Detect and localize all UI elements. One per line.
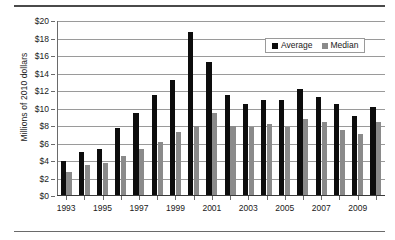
bar-median-1995 <box>103 163 108 196</box>
x-axis-tick <box>139 196 140 200</box>
y-axis-tick <box>51 109 55 110</box>
legend-label-median: Median <box>331 41 359 50</box>
bar-group <box>166 21 184 196</box>
y-axis-tick <box>51 21 55 22</box>
y-axis-tick <box>51 161 55 162</box>
bar-average-1994 <box>79 152 84 196</box>
y-axis-tick-label: $20 <box>35 16 49 26</box>
x-axis-tick <box>285 196 286 200</box>
bar-median-1998 <box>158 142 163 196</box>
bar-average-2008 <box>334 104 339 196</box>
y-axis-tick-label: $12 <box>35 86 49 96</box>
x-axis-tick <box>194 196 195 200</box>
y-axis-tick <box>51 144 55 145</box>
y-axis-tick <box>51 91 55 92</box>
legend-swatch-average-icon <box>272 43 278 49</box>
y-axis-tick-label: $18 <box>35 34 49 44</box>
y-axis-tick <box>51 74 55 75</box>
bar-group <box>112 21 130 196</box>
x-axis-tick <box>248 196 249 200</box>
x-axis-tick <box>175 196 176 200</box>
y-axis-tick-label: $6 <box>40 139 49 149</box>
x-axis-tick <box>66 196 67 200</box>
x-axis-tick-label: 2005 <box>275 203 294 213</box>
x-axis-tick <box>321 196 322 200</box>
bar-average-2000 <box>188 32 193 197</box>
legend-item-median: Median <box>322 41 359 50</box>
x-axis-tick <box>339 196 340 200</box>
bar-median-1993 <box>66 172 71 197</box>
bar-median-1999 <box>176 132 181 196</box>
bar-median-2008 <box>340 130 345 197</box>
top-border-rule <box>14 5 385 7</box>
y-axis-tick <box>51 39 55 40</box>
x-axis-tick-label: 1995 <box>93 203 112 213</box>
bar-median-2002 <box>230 126 235 196</box>
y-axis-tick-label: $0 <box>40 191 49 201</box>
x-axis-tick <box>267 196 268 200</box>
bar-average-2001 <box>206 62 211 196</box>
bar-group <box>93 21 111 196</box>
bar-median-1997 <box>139 149 144 196</box>
bar-average-1998 <box>152 95 157 197</box>
bar-median-2009 <box>358 134 363 196</box>
x-axis-tick-label: 1999 <box>166 203 185 213</box>
bar-average-2010 <box>370 107 375 196</box>
x-axis-tick <box>157 196 158 200</box>
bottom-border-rule <box>14 231 385 232</box>
x-axis-tick-label: 2001 <box>202 203 221 213</box>
bar-median-2004 <box>267 124 272 196</box>
x-axis-tick-label: 1993 <box>57 203 76 213</box>
bar-median-2010 <box>376 122 381 196</box>
bar-average-1999 <box>170 80 175 196</box>
y-axis-tick <box>51 196 55 197</box>
x-axis-tick-label: 2003 <box>239 203 258 213</box>
x-axis-tick <box>358 196 359 200</box>
bar-average-2009 <box>352 116 357 197</box>
bar-group <box>148 21 166 196</box>
y-axis-tick-label: $2 <box>40 174 49 184</box>
x-axis-tick <box>376 196 377 200</box>
bar-average-2006 <box>297 89 302 196</box>
y-axis-tick <box>51 126 55 127</box>
bar-group <box>221 21 239 196</box>
y-axis-tick-labels: $0$2$4$6$8$10$12$14$16$18$20 <box>0 21 55 196</box>
y-axis-tick-label: $16 <box>35 51 49 61</box>
y-axis-tick <box>51 56 55 57</box>
legend-swatch-median-icon <box>322 43 328 49</box>
bar-average-2004 <box>261 100 266 196</box>
x-axis-tick <box>84 196 85 200</box>
bar-median-2003 <box>249 127 254 196</box>
bar-group <box>203 21 221 196</box>
y-axis-tick-label: $8 <box>40 121 49 131</box>
bar-average-2005 <box>279 100 284 196</box>
legend-item-average: Average <box>272 41 313 50</box>
bar-average-1995 <box>97 149 102 196</box>
x-axis-tick <box>230 196 231 200</box>
x-axis-tick <box>303 196 304 200</box>
bar-average-2002 <box>225 95 230 197</box>
x-axis-tick <box>212 196 213 200</box>
bar-median-2005 <box>285 127 290 196</box>
bar-average-2003 <box>243 104 248 196</box>
bar-average-1997 <box>133 113 138 196</box>
y-axis-tick-label: $4 <box>40 156 49 166</box>
bar-median-2001 <box>212 113 217 196</box>
x-axis-tick-label: 1997 <box>130 203 149 213</box>
x-axis-tick-label: 2009 <box>348 203 367 213</box>
bar-median-1994 <box>85 165 90 197</box>
bar-group <box>57 21 75 196</box>
bar-median-2007 <box>322 122 327 196</box>
bar-average-1996 <box>115 128 120 196</box>
chart-figure: Millions of 2010 dollars $0$2$4$6$8$10$1… <box>0 0 395 240</box>
y-axis-tick-label: $14 <box>35 69 49 79</box>
bar-group <box>239 21 257 196</box>
x-axis-tick-labels: 199319951997199920012003200520072009 <box>57 196 385 218</box>
bar-average-2007 <box>316 97 321 196</box>
y-axis-tick-label: $10 <box>35 104 49 114</box>
bar-group <box>130 21 148 196</box>
legend-label-average: Average <box>281 41 313 50</box>
x-axis-tick-label: 2007 <box>312 203 331 213</box>
bar-median-2006 <box>303 119 308 196</box>
x-axis-tick <box>103 196 104 200</box>
